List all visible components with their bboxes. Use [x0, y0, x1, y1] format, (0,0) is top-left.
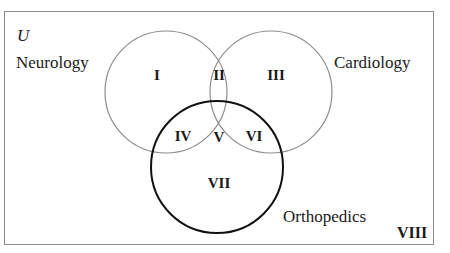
venn-circles	[0, 0, 450, 253]
region-label-iv: IV	[175, 129, 192, 144]
universe-symbol-label: U	[17, 27, 29, 44]
region-label-iii: III	[267, 68, 285, 83]
region-label-viii: VIII	[397, 225, 427, 241]
set-label-orthopedics: Orthopedics	[283, 208, 366, 225]
region-label-vii: VII	[208, 176, 231, 191]
region-label-i: I	[154, 68, 160, 83]
venn-diagram-figure: U Neurology Cardiology Orthopedics I II …	[0, 0, 450, 253]
region-label-ii: II	[213, 68, 225, 83]
circle-cardiology	[210, 31, 332, 153]
set-label-neurology: Neurology	[16, 54, 89, 71]
set-label-cardiology: Cardiology	[334, 54, 411, 71]
region-label-v: V	[214, 130, 225, 145]
region-label-vi: VI	[246, 129, 263, 144]
circle-neurology	[105, 31, 227, 153]
